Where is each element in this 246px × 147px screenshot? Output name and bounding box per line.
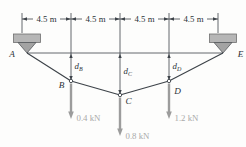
- node-c: [118, 93, 121, 96]
- load-label-d: 1.2 kN: [175, 113, 200, 123]
- sag-label-db: dB: [75, 61, 83, 72]
- node-b: [69, 79, 72, 82]
- load-arrow-c: [117, 98, 123, 137]
- support-a: [14, 34, 41, 53]
- sag-label-dc: dC: [124, 66, 133, 77]
- point-label-c: C: [125, 96, 132, 106]
- load-arrow-b: [68, 84, 74, 120]
- support-e-pin: [214, 43, 232, 54]
- span-label-2: 4.5 m: [85, 14, 105, 24]
- diagram-svg: 4.5 m 4.5 m 4.5 m 4.5 m 0.4 kN: [0, 0, 246, 147]
- load-label-c: 0.8 kN: [126, 131, 151, 141]
- point-label-e: E: [237, 49, 244, 59]
- span-label-1: 4.5 m: [36, 14, 56, 24]
- load-label-b: 0.4 kN: [77, 113, 102, 123]
- cable-loads-diagram: 4.5 m 4.5 m 4.5 m 4.5 m 0.4 kN: [0, 0, 246, 147]
- support-e-block: [210, 34, 237, 43]
- sag-label-dd: dD: [173, 61, 182, 72]
- point-label-a: A: [8, 49, 15, 59]
- span-label-4: 4.5 m: [183, 14, 203, 24]
- node-d: [167, 79, 170, 82]
- support-a-pin: [18, 43, 36, 54]
- support-a-block: [14, 34, 41, 43]
- point-label-b: B: [59, 80, 65, 90]
- span-label-3: 4.5 m: [134, 14, 154, 24]
- support-e: [210, 34, 237, 53]
- point-label-d: D: [173, 86, 181, 96]
- load-arrow-d: [166, 84, 172, 120]
